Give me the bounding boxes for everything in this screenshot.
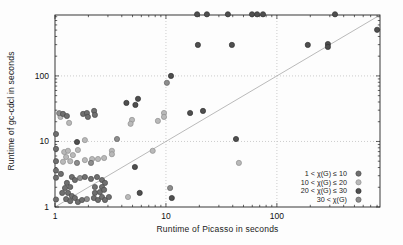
data-point: [68, 184, 73, 189]
data-point: [164, 80, 169, 85]
data-point: [169, 195, 174, 200]
data-point: [82, 138, 87, 143]
data-point: [92, 112, 97, 117]
legend-marker: [356, 180, 361, 185]
data-point: [88, 160, 93, 165]
data-point: [155, 118, 160, 123]
data-point: [188, 110, 193, 115]
data-point: [128, 121, 133, 126]
legend-label: 1 < χ(G) ≤ 10: [305, 169, 347, 178]
data-point: [64, 113, 69, 118]
data-point: [65, 148, 70, 153]
data-point: [225, 12, 230, 17]
data-point: [102, 155, 107, 160]
data-point: [94, 174, 99, 179]
data-point: [60, 190, 65, 195]
y-tick-label: 10: [40, 136, 50, 146]
data-point: [53, 159, 58, 164]
data-point: [135, 96, 140, 101]
data-point: [233, 136, 238, 141]
legend-marker: [356, 171, 361, 176]
x-tick-label: 100: [270, 211, 284, 221]
data-point: [150, 148, 155, 153]
legend-label: 10 < χ(G) ≤ 20: [301, 178, 347, 187]
data-point: [260, 12, 265, 17]
data-point: [168, 73, 173, 78]
data-point: [305, 42, 310, 47]
data-point: [137, 190, 142, 195]
data-point: [200, 108, 205, 113]
data-point: [195, 12, 200, 17]
data-point: [58, 171, 63, 176]
x-tick-label: 10: [161, 211, 171, 221]
legend-label: 20 < χ(G) ≤ 30: [301, 186, 347, 195]
data-point: [68, 159, 73, 164]
runtime-comparison-scatter-figure: 1101001101001 < χ(G) ≤ 1010 < χ(G) ≤ 202…: [0, 0, 403, 245]
data-point: [114, 136, 119, 141]
data-point: [95, 156, 100, 161]
data-point: [84, 197, 89, 202]
data-point: [77, 175, 82, 180]
data-point: [236, 160, 241, 165]
y-axis-title: Runtime of gc-cdcl in seconds: [6, 15, 19, 207]
y-tick-label: 100: [35, 71, 49, 81]
data-point: [68, 199, 73, 204]
legend-marker: [356, 197, 361, 202]
data-point: [161, 114, 166, 119]
data-point: [64, 154, 69, 159]
data-point: [53, 175, 58, 180]
data-point: [53, 131, 58, 136]
data-point: [375, 27, 380, 32]
data-point: [133, 102, 138, 107]
data-point: [75, 147, 80, 152]
data-point: [132, 164, 137, 169]
data-point: [229, 42, 234, 47]
y-tick-label: 1: [44, 202, 49, 212]
data-point: [72, 177, 77, 182]
scatter-plot-canvas: 1101001101001 < χ(G) ≤ 1010 < χ(G) ≤ 202…: [0, 0, 403, 245]
data-point: [74, 160, 79, 165]
data-point: [109, 152, 114, 157]
data-point: [53, 146, 58, 151]
data-point: [92, 184, 97, 189]
data-point: [125, 194, 130, 199]
data-point: [62, 185, 67, 190]
data-point: [53, 168, 58, 173]
data-point: [255, 12, 260, 17]
data-point: [124, 100, 129, 105]
data-point: [67, 120, 72, 125]
data-point: [168, 185, 173, 190]
data-point: [88, 176, 93, 181]
data-point: [60, 159, 65, 164]
x-tick-label: 1: [53, 211, 58, 221]
data-point: [102, 187, 107, 192]
data-point: [195, 42, 200, 47]
data-point: [106, 194, 111, 199]
data-point: [249, 12, 254, 17]
legend-marker: [356, 188, 361, 193]
data-point: [325, 44, 330, 49]
data-point: [332, 12, 337, 17]
legend-label: 30 < χ(G): [317, 195, 347, 204]
data-point: [53, 197, 58, 202]
data-point: [204, 12, 209, 17]
data-point: [92, 190, 97, 195]
data-point: [85, 114, 90, 119]
data-point: [82, 174, 87, 179]
data-point: [79, 197, 84, 202]
x-axis-title: Runtime of Picasso in seconds: [55, 224, 380, 234]
data-point: [82, 158, 87, 163]
data-point: [74, 139, 79, 144]
data-point: [70, 153, 75, 158]
